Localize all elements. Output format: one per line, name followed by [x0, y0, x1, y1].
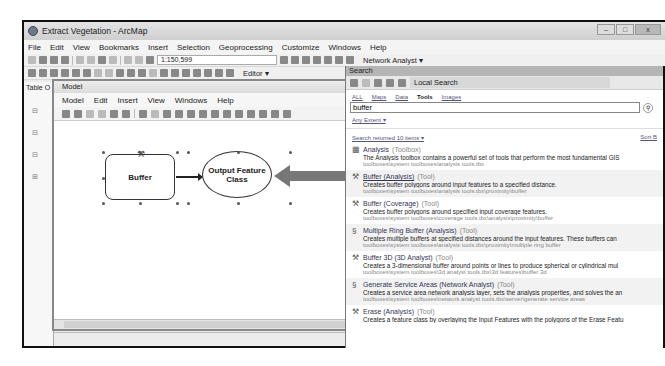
- add-data-icon[interactable]: [146, 56, 154, 64]
- model-menu-help[interactable]: Help: [217, 96, 233, 105]
- refresh-icon[interactable]: [386, 79, 394, 87]
- filter-maps[interactable]: Maps: [372, 94, 387, 100]
- print-icon[interactable]: [61, 56, 69, 64]
- menu-customize[interactable]: Customize: [282, 43, 320, 52]
- run-icon[interactable]: [283, 110, 291, 118]
- print-icon[interactable]: [74, 110, 82, 118]
- viewer-icon[interactable]: [226, 69, 234, 77]
- cut-icon[interactable]: [76, 56, 84, 64]
- menu-geoprocessing[interactable]: Geoprocessing: [219, 43, 273, 52]
- menu-windows[interactable]: Windows: [328, 43, 360, 52]
- full-extent-icon[interactable]: [187, 110, 195, 118]
- add-data-icon[interactable]: [163, 110, 171, 118]
- menu-edit[interactable]: Edit: [50, 43, 64, 52]
- identify-icon[interactable]: [138, 69, 146, 77]
- menu-selection[interactable]: Selection: [177, 43, 210, 52]
- html-popup-icon[interactable]: [160, 69, 168, 77]
- search-result[interactable]: §Generate Service Areas (Network Analyst…: [346, 278, 663, 305]
- minimize-button[interactable]: –: [597, 24, 615, 35]
- search-result[interactable]: ⚒Buffer (Coverage)(Tool) Creates buffer …: [346, 197, 663, 224]
- zoom-out-icon[interactable]: [39, 69, 47, 77]
- table-of-contents-icon[interactable]: [291, 56, 299, 64]
- measure-icon[interactable]: [171, 69, 179, 77]
- save-icon[interactable]: [50, 56, 58, 64]
- selection-handle[interactable]: [289, 151, 292, 154]
- filter-data[interactable]: Data: [395, 94, 408, 100]
- menu-bookmarks[interactable]: Bookmarks: [99, 43, 139, 52]
- selection-handle[interactable]: [176, 151, 179, 154]
- zoom-in-icon[interactable]: [223, 110, 231, 118]
- selection-handle[interactable]: [139, 151, 142, 154]
- search-result[interactable]: ⚒Erase (Analysis)(Tool) Creates a featur…: [346, 305, 663, 326]
- menu-file[interactable]: File: [28, 43, 41, 52]
- menu-insert[interactable]: Insert: [148, 43, 168, 52]
- network-analyst-dropdown[interactable]: Network Analyst ▾: [363, 56, 423, 65]
- fixed-zoom-out-icon[interactable]: [211, 110, 219, 118]
- find-icon[interactable]: [182, 69, 190, 77]
- search-result[interactable]: ⚒Buffer 3D (3D Analyst)(Tool) Creates a …: [346, 251, 663, 278]
- close-button[interactable]: x: [635, 24, 661, 35]
- extent-dropdown[interactable]: Any Extent ▾: [346, 113, 663, 123]
- cut-icon[interactable]: [86, 110, 94, 118]
- select-elements-icon[interactable]: [127, 69, 135, 77]
- search-result[interactable]: §Multiple Ring Buffer (Analysis)(Tool) C…: [346, 224, 663, 251]
- selection-handle[interactable]: [187, 151, 190, 154]
- model-menu-windows[interactable]: Windows: [175, 96, 207, 105]
- back-icon[interactable]: [94, 69, 102, 77]
- filter-tools[interactable]: Tools: [417, 94, 433, 100]
- search-window-icon[interactable]: [313, 56, 321, 64]
- expand-icon[interactable]: ⊟: [32, 107, 53, 115]
- horizontal-scrollbar[interactable]: [54, 319, 380, 329]
- copy-icon[interactable]: [98, 110, 106, 118]
- scrollbar-thumb[interactable]: [64, 321, 364, 328]
- modelbuilder-icon[interactable]: [346, 56, 354, 64]
- model-menu-insert[interactable]: Insert: [118, 96, 138, 105]
- selection-handle[interactable]: [139, 202, 142, 205]
- selection-handle[interactable]: [102, 202, 105, 205]
- model-menu-edit[interactable]: Edit: [94, 96, 108, 105]
- back-icon[interactable]: [350, 79, 358, 87]
- delete-icon[interactable]: [122, 110, 130, 118]
- copy-icon[interactable]: [87, 56, 95, 64]
- search-result[interactable]: ⚒Buffer (Analysis)(Tool) Creates buffer …: [346, 170, 663, 197]
- route-icon[interactable]: [193, 69, 201, 77]
- model-canvas[interactable]: ⚒ Buffer Output Feature Class: [54, 121, 380, 309]
- zoom-in-icon[interactable]: [28, 69, 36, 77]
- pan-icon[interactable]: [50, 69, 58, 77]
- map-scale-input[interactable]: 1:150,599: [157, 55, 277, 65]
- forward-icon[interactable]: [362, 79, 370, 87]
- redo-icon[interactable]: [151, 110, 159, 118]
- selection-handle[interactable]: [237, 202, 240, 205]
- search-go-icon[interactable]: ⚲: [643, 103, 653, 113]
- selection-handle[interactable]: [176, 202, 179, 205]
- menu-view[interactable]: View: [73, 43, 90, 52]
- fixed-zoom-in-icon[interactable]: [72, 69, 80, 77]
- undo-icon[interactable]: [139, 110, 147, 118]
- maximize-button[interactable]: □: [616, 24, 634, 35]
- selection-handle[interactable]: [102, 177, 105, 180]
- catalog-icon[interactable]: [302, 56, 310, 64]
- search-result[interactable]: ▦Analysis(Toolbox) The Analysis toolbox …: [346, 143, 663, 170]
- undo-icon[interactable]: [124, 56, 132, 64]
- model-menu-view[interactable]: View: [148, 96, 165, 105]
- filter-images[interactable]: Images: [442, 94, 462, 100]
- search-input[interactable]: [350, 102, 640, 113]
- output-feature-class-node[interactable]: Output Feature Class: [202, 151, 272, 198]
- validate-icon[interactable]: [271, 110, 279, 118]
- new-icon[interactable]: [28, 56, 36, 64]
- home-icon[interactable]: [374, 79, 382, 87]
- delete-icon[interactable]: [109, 56, 117, 64]
- auto-layout-icon[interactable]: [175, 110, 183, 118]
- selection-handle[interactable]: [289, 202, 292, 205]
- arctoolbox-icon[interactable]: [324, 56, 332, 64]
- full-extent-icon[interactable]: [61, 69, 69, 77]
- buffer-process-node[interactable]: Buffer: [105, 154, 175, 200]
- paste-icon[interactable]: [110, 110, 118, 118]
- selection-handle[interactable]: [102, 151, 105, 154]
- expand-icon[interactable]: ⊞: [32, 173, 53, 181]
- open-icon[interactable]: [39, 56, 47, 64]
- save-icon[interactable]: [62, 110, 70, 118]
- editor-toolbar-icon[interactable]: [280, 56, 288, 64]
- model-menu-model[interactable]: Model: [62, 96, 84, 105]
- results-count[interactable]: Search returned 10 items ▾: [352, 134, 424, 141]
